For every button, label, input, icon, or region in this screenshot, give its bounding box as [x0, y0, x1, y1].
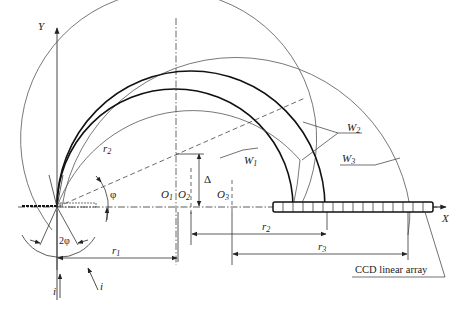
delta-label: Δ	[204, 173, 211, 185]
incidence-label-1: i	[53, 285, 56, 297]
w2-label: W2	[347, 121, 360, 135]
incidence-label-2: i	[100, 280, 103, 292]
cone-line-left	[40, 207, 57, 245]
x-axis-label: X	[441, 212, 450, 224]
two-phi-arrow-left	[30, 240, 40, 243]
phi-arrow-top	[96, 176, 101, 182]
r3-label: r3	[318, 240, 326, 254]
wavefront-w2-thin-b	[293, 160, 300, 207]
w1-label: W1	[244, 154, 257, 168]
o3-label: O3	[217, 188, 229, 202]
phi-label: φ	[110, 188, 116, 200]
y-axis-label: Y	[38, 20, 46, 32]
o2-label: O2	[178, 188, 190, 202]
incidence-arrow-oblique	[88, 268, 98, 290]
r2-ray-label: r2	[103, 142, 111, 156]
cone-line-up-left	[49, 175, 57, 207]
optical-geometry-diagram: Y X O1 O2 O3 r1 r2 r2 r3 W1 W2 W3 φ 2φ Δ…	[0, 0, 465, 310]
wavefront-w2	[57, 71, 325, 207]
w2-leader-b	[303, 122, 338, 133]
r2-dim-label: r2	[262, 220, 270, 234]
two-phi-label: 2φ	[59, 235, 70, 246]
two-phi-arrow-right	[78, 240, 88, 243]
w3-label: W3	[342, 152, 355, 166]
o1-label: O1	[161, 188, 173, 202]
ccd-array-label: CCD linear array	[355, 264, 428, 275]
diagram-canvas: Y X O1 O2 O3 r1 r2 r2 r3 W1 W2 W3 φ 2φ Δ…	[0, 0, 465, 310]
r1-label: r1	[112, 244, 120, 258]
ccd-linear-array	[273, 202, 433, 212]
